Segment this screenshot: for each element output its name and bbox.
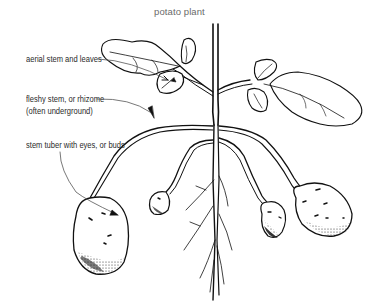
leader-lines [60,59,168,215]
leaf-right-small-top [254,59,276,80]
potato-plant-illustration [0,0,375,301]
tuber-right-large [294,183,352,236]
leaf-small-left [181,38,195,63]
leaf-top-left [102,39,180,75]
roots [184,176,232,292]
rhizome-left-short [166,140,213,194]
rhizome-right-short [219,138,270,206]
rhizome-left-long [90,125,213,198]
leaf-right-small-bottom [248,88,268,111]
leader-rhizome [97,99,150,112]
leaf-aerial-lower [157,71,184,93]
tuber-left-small [150,192,170,215]
tuber-right-small [261,202,286,238]
main-stem [213,24,219,300]
rhizome-right-long [219,126,300,188]
leaf-right-large [264,72,362,126]
tuber-left-large [73,197,128,274]
